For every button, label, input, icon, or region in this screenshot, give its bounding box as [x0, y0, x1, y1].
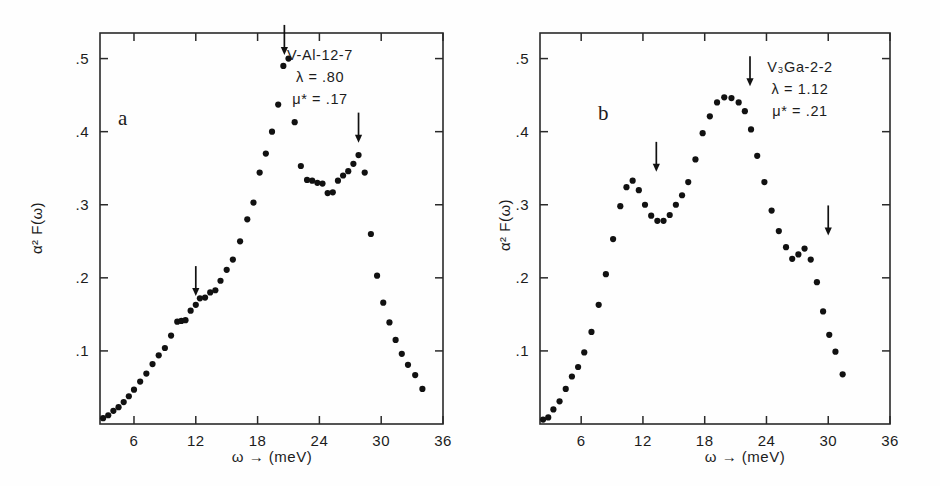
- panel-a-x-tick-labels: 61218243036: [130, 432, 452, 449]
- data-point: [230, 256, 236, 262]
- data-point: [156, 352, 162, 358]
- data-point: [386, 319, 392, 325]
- data-point: [121, 399, 127, 405]
- data-point: [667, 212, 673, 218]
- arrow-head: [355, 135, 362, 143]
- data-point: [714, 99, 720, 105]
- data-point: [575, 364, 581, 370]
- data-point: [412, 372, 418, 378]
- panel-b-sample-label: V₃Ga-2-2: [767, 59, 833, 75]
- panel-b-axes-frame: [540, 33, 890, 424]
- y-tick-label: .2: [75, 269, 89, 286]
- panel-a-arrow-annotations: [192, 25, 362, 296]
- data-point: [345, 168, 351, 174]
- data-point: [761, 179, 767, 185]
- x-tick-label: 30: [372, 432, 390, 449]
- data-point: [149, 361, 155, 367]
- data-point: [814, 279, 820, 285]
- data-point: [685, 179, 691, 185]
- data-point: [769, 207, 775, 213]
- data-point: [603, 271, 609, 277]
- y-tick-label: .4: [75, 123, 89, 140]
- data-point: [801, 246, 807, 252]
- panel-a-mustar-label: μ* = .17: [292, 91, 347, 107]
- data-point: [832, 349, 838, 355]
- data-point: [610, 236, 616, 242]
- chart-panel-a: 61218243036 .1.2.3.4.5 a V-Al-12-7 λ = .…: [0, 0, 470, 486]
- arrow-head: [192, 288, 199, 296]
- x-tick-label: 36: [434, 432, 452, 449]
- x-tick-label: 36: [881, 432, 899, 449]
- data-point: [660, 218, 666, 224]
- y-tick-label: .3: [75, 196, 89, 213]
- data-point: [673, 202, 679, 208]
- y-tick-label: .4: [515, 123, 529, 140]
- data-point: [556, 398, 562, 404]
- data-point: [630, 178, 636, 184]
- panel-a-data-points: [100, 55, 426, 421]
- data-point: [623, 184, 629, 190]
- panel-b-mustar-label: μ* = .21: [772, 103, 827, 119]
- data-point: [545, 414, 551, 420]
- data-point: [188, 308, 194, 314]
- data-point: [224, 267, 230, 273]
- data-point: [692, 156, 698, 162]
- x-tick-label: 12: [187, 432, 205, 449]
- data-point: [742, 108, 748, 114]
- data-point: [115, 404, 121, 410]
- data-point: [707, 113, 713, 119]
- data-point: [298, 163, 304, 169]
- panel-b-ticks: [540, 33, 890, 424]
- data-point: [237, 238, 243, 244]
- data-point: [319, 180, 325, 186]
- data-point: [340, 172, 346, 178]
- x-tick-label: 18: [696, 432, 714, 449]
- panel-a-letter: a: [118, 106, 128, 130]
- data-point: [374, 273, 380, 279]
- panel-a-canvas: 61218243036 .1.2.3.4.5 a V-Al-12-7 λ = .…: [0, 0, 470, 486]
- data-point: [795, 251, 801, 257]
- data-point: [263, 150, 269, 156]
- data-point: [393, 337, 399, 343]
- data-point: [736, 99, 742, 105]
- data-point: [168, 332, 174, 338]
- data-point: [362, 169, 368, 175]
- y-tick-label: .1: [515, 342, 529, 359]
- data-point: [110, 408, 116, 414]
- y-tick-label: .5: [515, 50, 529, 67]
- data-point: [569, 373, 575, 379]
- x-tick-label: 6: [130, 432, 139, 449]
- data-point: [280, 63, 286, 69]
- data-point: [137, 379, 143, 385]
- data-point: [350, 161, 356, 167]
- data-point: [636, 187, 642, 193]
- panel-a-x-axis-title: ω → (meV): [232, 448, 312, 465]
- data-point: [355, 152, 361, 158]
- panel-b-x-tick-labels: 61218243036: [577, 432, 899, 449]
- data-point: [776, 228, 782, 234]
- arrow-head: [746, 78, 753, 86]
- data-point: [563, 386, 569, 392]
- y-tick-label: .3: [515, 196, 529, 213]
- data-point: [581, 349, 587, 355]
- data-point: [826, 332, 832, 338]
- data-point: [275, 102, 281, 108]
- arrow-head: [825, 227, 832, 235]
- panel-b-letter: b: [598, 101, 609, 125]
- data-point: [202, 294, 208, 300]
- data-point: [368, 231, 374, 237]
- data-point: [335, 178, 341, 184]
- panel-b-y-axis-title: α² F(ω): [496, 199, 513, 251]
- data-point: [550, 406, 556, 412]
- data-point: [419, 386, 425, 392]
- panel-a-y-axis-title: α² F(ω): [28, 202, 45, 254]
- data-point: [292, 119, 298, 125]
- data-point: [808, 256, 814, 262]
- data-point: [162, 345, 168, 351]
- panel-b-data-points: [540, 94, 846, 423]
- data-point: [588, 329, 594, 335]
- data-point: [654, 218, 660, 224]
- data-point: [840, 371, 846, 377]
- x-tick-label: 6: [577, 432, 586, 449]
- chart-panel-b: 61218243036 .1.2.3.4.5 b V₃Ga-2-2 λ = 1.…: [470, 0, 940, 486]
